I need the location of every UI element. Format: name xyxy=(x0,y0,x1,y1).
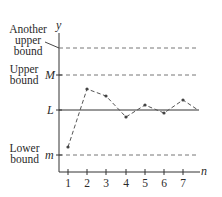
another-upper-bound-label: Another upper bound xyxy=(8,24,48,57)
sequence-line xyxy=(68,89,198,147)
x-axis-label: n xyxy=(201,164,207,179)
x-tick-label-5: 5 xyxy=(140,177,150,189)
point-2 xyxy=(85,87,88,90)
x-tick-label-2: 2 xyxy=(82,177,92,189)
x-tick-label-3: 3 xyxy=(101,177,111,189)
point-5 xyxy=(143,103,146,106)
lower-bound-label: Lower bound xyxy=(8,143,41,165)
y-axis-label: y xyxy=(56,18,61,33)
symbol-m: m xyxy=(45,148,54,163)
point-3 xyxy=(104,94,107,97)
symbol-M: M xyxy=(45,68,55,83)
x-tick-label-4: 4 xyxy=(121,177,131,189)
x-tick-label-1: 1 xyxy=(63,177,73,189)
symbol-L: L xyxy=(47,103,54,118)
x-tick-label-6: 6 xyxy=(159,177,169,189)
point-6 xyxy=(162,111,165,114)
point-4 xyxy=(124,115,127,118)
point-7 xyxy=(181,98,184,101)
x-tick-label-7: 7 xyxy=(178,177,188,189)
point-1 xyxy=(66,145,69,148)
upper-bound-label: Upper bound xyxy=(8,64,40,86)
